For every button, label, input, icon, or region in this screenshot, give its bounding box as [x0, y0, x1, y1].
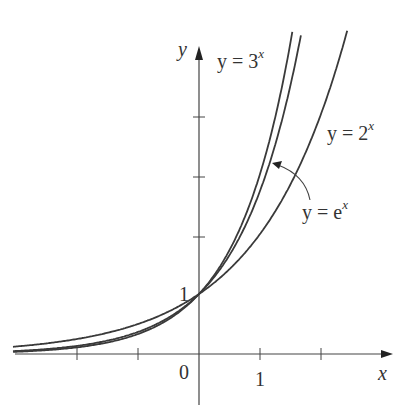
x-tick-label-1: 1 [255, 368, 265, 391]
x-axis-arrow-icon [381, 350, 393, 358]
y-tick-label-1: 1 [179, 283, 189, 306]
curve-y3x [13, 32, 292, 352]
label-ex: y = ex [302, 199, 348, 224]
curve-yex [13, 35, 301, 351]
annotation-arrowhead-icon [272, 161, 282, 169]
label-3x: y = 3x [217, 48, 264, 73]
y-axis-label: y [178, 38, 187, 61]
label-2x: y = 2x [327, 120, 374, 145]
origin-label: 0 [179, 361, 189, 384]
annotation-arrow [278, 165, 310, 200]
plot-area [0, 0, 418, 409]
y-axis-arrow-icon [195, 46, 203, 60]
chart-figure: y x 0 1 1 y = 3x y = 2x y = ex [0, 0, 418, 409]
x-axis-label: x [378, 362, 387, 385]
